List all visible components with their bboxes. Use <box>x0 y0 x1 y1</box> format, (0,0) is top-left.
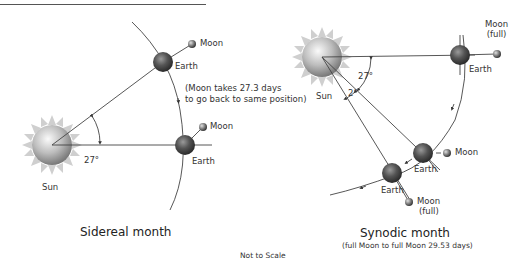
scale-note: Not to Scale <box>240 251 286 260</box>
angle-label: 27° <box>84 156 99 166</box>
moon-label: Moon (full) <box>485 20 508 40</box>
moon-label: Moon <box>200 39 223 49</box>
sun-earth-line-top <box>52 62 163 145</box>
synodic-group <box>292 27 501 206</box>
moon-label-line2: (full) <box>485 30 508 40</box>
moon-label-line2: (full) <box>417 207 440 217</box>
sun-label: Sun <box>316 92 332 102</box>
earth-label: Earth <box>175 62 198 72</box>
sidereal-caption: Sidereal month <box>80 225 171 239</box>
earth-icon <box>382 163 402 183</box>
moon-icon <box>405 198 413 206</box>
earth-icon <box>153 52 173 72</box>
moon-icon <box>443 149 451 157</box>
synodic-subcaption: (full Moon to full Moon 29.53 days) <box>342 241 473 250</box>
earth-label: Earth <box>192 157 215 167</box>
orbit-direction-arrow <box>178 98 179 102</box>
note-line-2: to go back to same position) <box>185 95 307 105</box>
earth-label: Earth <box>469 65 492 75</box>
angle-arc <box>92 116 100 143</box>
moon-icon <box>493 50 501 58</box>
angle-label-27: 27° <box>358 72 373 82</box>
orbit-arc <box>132 22 183 210</box>
lunar-month-diagram <box>0 0 510 260</box>
sun-label: Sun <box>42 183 58 193</box>
angle-label-2: 2° <box>348 89 358 99</box>
earth-label: Earth <box>414 165 437 175</box>
earth-icon <box>450 45 470 65</box>
earth-label: Earth <box>381 186 404 196</box>
moon-label: Moon (full) <box>417 197 440 217</box>
moon-icon <box>199 123 207 131</box>
earth-icon <box>413 143 433 163</box>
moon-icon <box>188 40 196 48</box>
moon-label: Moon <box>455 148 478 158</box>
earth-icon <box>175 135 195 155</box>
synodic-caption: Synodic month <box>360 226 450 240</box>
note-line-1: (Moon takes 27.3 days <box>185 84 281 94</box>
moon-label: Moon <box>210 122 233 132</box>
